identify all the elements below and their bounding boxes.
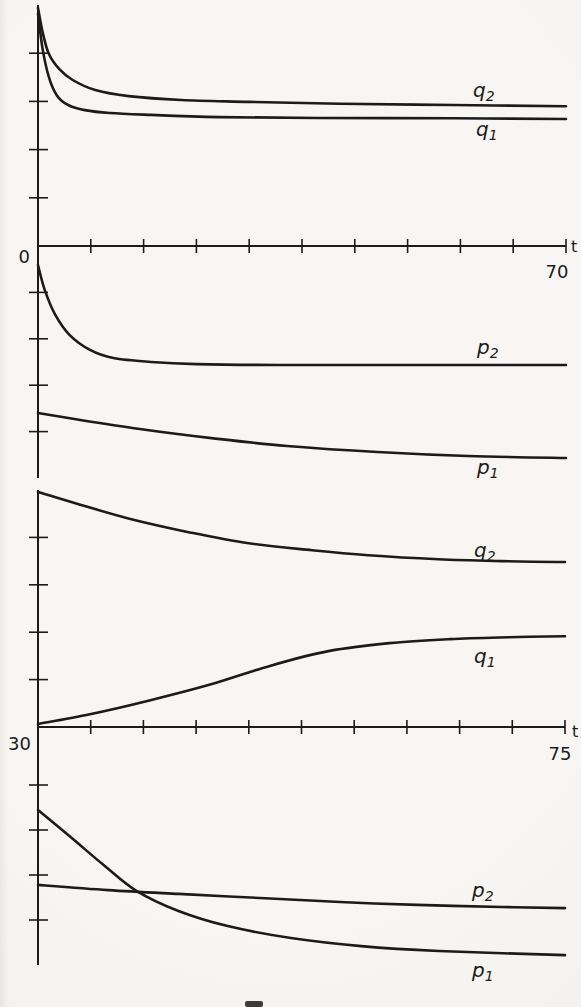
axis2-origin-label: 30 xyxy=(8,733,31,754)
axis1-origin-label: 0 xyxy=(19,246,30,267)
axis2-t-label: t xyxy=(572,722,578,741)
axis1-end-label: 70 xyxy=(546,261,569,282)
scanned-figure-page: q2 q1 p2 p1 q2 q1 p2 p1 0 70 t 30 75 t xyxy=(0,0,581,1007)
curve-p1-panel-2 xyxy=(38,413,566,458)
chart-panel-4 xyxy=(29,785,565,955)
chart-panel-3 xyxy=(29,492,565,734)
curve-label-q1-panel-3: q1 xyxy=(474,644,496,670)
curve-label-q2-panel-3: q2 xyxy=(474,538,496,564)
curve-label-p2-panel-2: p2 xyxy=(476,335,499,361)
curve-label-q1-panel-1: q1 xyxy=(476,117,498,143)
chart-dynamic-layer xyxy=(29,8,566,955)
chart-panel-2 xyxy=(29,265,566,458)
cropped-caption-fragment xyxy=(245,1001,263,1007)
four-panel-chart-figure: q2 q1 p2 p1 q2 q1 p2 p1 0 70 t 30 75 t xyxy=(0,0,581,1007)
axis2-end-label: 75 xyxy=(549,743,572,764)
curve-label-q2-panel-1: q2 xyxy=(473,78,495,104)
curve-p1-panel-4 xyxy=(38,810,565,955)
curve-label-p1-panel-2: p1 xyxy=(476,455,499,481)
curve-label-p1-panel-4: p1 xyxy=(471,958,494,984)
axis1-t-label: t xyxy=(571,237,577,256)
curve-label-p2-panel-4: p2 xyxy=(471,878,494,904)
